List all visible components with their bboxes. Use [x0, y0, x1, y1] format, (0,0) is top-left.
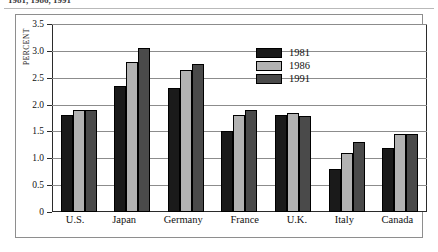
x-axis-label: Italy — [335, 214, 354, 225]
y-axis-tick-label: 3.5 — [32, 19, 44, 29]
legend-label: 1991 — [289, 73, 310, 84]
bar — [114, 86, 126, 212]
legend-item: 1991 — [256, 73, 310, 84]
bar — [353, 142, 365, 212]
bar-group — [168, 24, 204, 212]
x-axis-label: U.S. — [66, 214, 85, 225]
y-axis-tick-label: 3.0 — [32, 46, 44, 56]
x-axis-label: Canada — [382, 214, 414, 225]
y-axis-tick-label: 0.5 — [32, 180, 44, 190]
bar — [61, 115, 73, 212]
bar — [233, 115, 245, 212]
bar — [329, 169, 341, 212]
x-axis-label: France — [230, 214, 259, 225]
header-divider — [4, 8, 434, 9]
bar — [406, 134, 418, 212]
caption-text: 1981, 1986, 1991 — [8, 0, 168, 5]
legend-label: 1981 — [289, 47, 310, 58]
y-axis-tick-label: 1.5 — [32, 126, 44, 136]
bar-group — [114, 24, 150, 212]
bar-group — [61, 24, 97, 212]
x-axis-label: Japan — [112, 214, 136, 225]
bar — [168, 88, 180, 212]
bar — [73, 110, 85, 212]
legend-swatch — [256, 74, 282, 84]
bar — [287, 113, 299, 212]
legend-swatch — [256, 48, 282, 58]
bar-group — [221, 24, 257, 212]
legend: 198119861991 — [256, 47, 310, 84]
bar — [221, 131, 233, 212]
legend-item: 1981 — [256, 47, 310, 58]
bar — [138, 48, 150, 212]
bar — [299, 116, 311, 212]
caption-remnant: 1981, 1986, 1991 — [8, 0, 168, 5]
y-axis-tick-label: 0 — [39, 207, 44, 217]
bar — [85, 110, 97, 212]
legend-item: 1986 — [256, 60, 310, 71]
bar — [394, 134, 406, 212]
figure: 1981, 1986, 1991 PERCENT 00.51.01.52.02.… — [0, 0, 438, 252]
x-axis-label: U.K. — [287, 214, 307, 225]
bar — [192, 64, 204, 212]
bar — [245, 110, 257, 212]
bar-group — [382, 24, 418, 212]
bar — [126, 62, 138, 212]
y-axis-tick-label: 2.0 — [32, 100, 44, 110]
bar — [275, 115, 287, 212]
bar — [180, 70, 192, 212]
y-axis-title: PERCENT — [22, 17, 31, 77]
plot-area: 00.51.01.52.02.53.03.5 — [52, 24, 427, 212]
bar — [341, 153, 353, 212]
y-axis-tick-label: 2.5 — [32, 73, 44, 83]
x-axis-labels: U.S.JapanGermanyFranceU.K.ItalyCanada — [52, 214, 427, 225]
bar-groups — [52, 24, 427, 212]
x-axis-label: Germany — [164, 214, 203, 225]
legend-swatch — [256, 61, 282, 71]
y-axis-tick — [47, 212, 52, 213]
legend-label: 1986 — [289, 60, 310, 71]
bar-group — [329, 24, 365, 212]
y-axis-tick-label: 1.0 — [32, 153, 44, 163]
bar — [382, 148, 394, 212]
